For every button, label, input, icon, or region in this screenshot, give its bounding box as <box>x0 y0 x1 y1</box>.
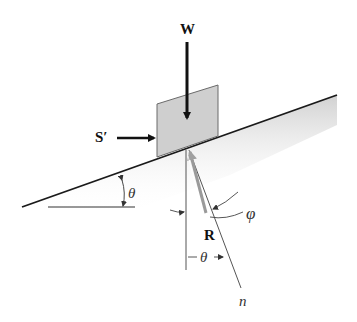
reaction-theta-arc-left <box>170 210 184 212</box>
friction-angle-arc-lower <box>210 212 243 218</box>
friction-angle-arc-upper <box>213 192 238 209</box>
diagram-graphics <box>0 0 357 322</box>
incline-angle-label: θ <box>128 186 135 201</box>
force-label: S′ <box>95 130 108 145</box>
reaction-angle-label: θ <box>200 250 207 265</box>
normal-label: n <box>239 294 247 309</box>
reaction-label: R <box>204 228 215 243</box>
weight-label: W <box>180 22 195 37</box>
incline-diagram: W S′ R θ θ φ n <box>0 0 357 322</box>
friction-angle-label: φ <box>246 205 255 222</box>
